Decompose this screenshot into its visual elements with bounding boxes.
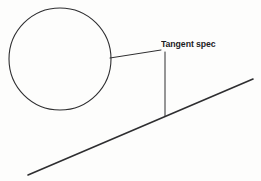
inclined-line-shape xyxy=(28,79,253,175)
leader-line-shape xyxy=(110,50,161,58)
diagram-canvas xyxy=(0,0,261,181)
tangent-spec-label: Tangent spec xyxy=(161,39,216,49)
circle-shape xyxy=(9,8,111,110)
tangent-spec-diagram: Tangent spec xyxy=(0,0,261,181)
